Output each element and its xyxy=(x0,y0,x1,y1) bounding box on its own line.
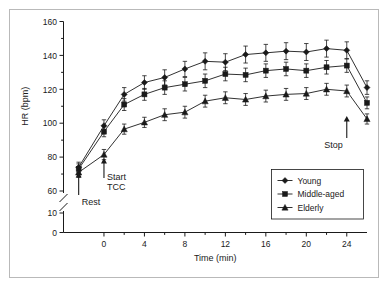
data-marker-square xyxy=(365,100,370,105)
data-marker-diamond xyxy=(324,46,330,52)
x-tick-label: 12 xyxy=(221,239,231,249)
data-marker-triangle xyxy=(121,126,127,132)
legend-label: Middle-aged xyxy=(298,189,345,199)
data-marker-diamond xyxy=(243,52,249,58)
data-marker-diamond xyxy=(121,91,127,97)
data-marker-square xyxy=(142,92,147,97)
annotation-start-tcc: Start xyxy=(107,172,127,182)
data-marker-diamond xyxy=(283,48,289,54)
data-marker-diamond xyxy=(141,80,147,86)
chart-svg: 160140120100806010004812162024Time (min)… xyxy=(0,0,389,288)
data-marker-triangle xyxy=(141,119,147,125)
x-axis-title: Time (min) xyxy=(194,253,237,263)
data-marker-square xyxy=(162,85,167,90)
data-marker-triangle xyxy=(182,109,188,115)
data-marker-square xyxy=(223,72,228,77)
data-marker-diamond xyxy=(202,58,208,64)
y-tick-label: 120 xyxy=(43,85,57,95)
data-marker-diamond xyxy=(263,50,269,56)
y-tick-label: 10 xyxy=(48,208,58,218)
hr-time-line-chart: 160140120100806010004812162024Time (min)… xyxy=(0,0,389,288)
x-tick-label: 4 xyxy=(142,239,147,249)
annotation-start-tcc-line2: TCC xyxy=(107,182,126,192)
y-tick-label: 60 xyxy=(48,186,58,196)
y-tick-label: 100 xyxy=(43,118,57,128)
x-tick-label: 24 xyxy=(342,239,352,249)
x-tick-label: 8 xyxy=(183,239,188,249)
data-marker-square xyxy=(284,66,289,71)
data-marker-square xyxy=(263,68,268,73)
y-axis-title: HR (bpm) xyxy=(20,87,30,126)
legend-label: Elderly xyxy=(298,203,325,213)
data-marker-square xyxy=(101,129,106,134)
data-marker-diamond xyxy=(344,47,350,53)
legend-label: Young xyxy=(298,176,322,186)
series-elderly xyxy=(76,83,371,177)
data-marker-square xyxy=(324,65,329,70)
data-marker-diamond xyxy=(182,66,188,72)
annotation-stop: Stop xyxy=(324,140,343,150)
y-tick-label: 0 xyxy=(52,228,57,238)
series-young xyxy=(76,40,370,172)
data-marker-diamond xyxy=(222,59,228,65)
data-marker-square xyxy=(122,102,127,107)
data-marker-square xyxy=(344,63,349,68)
data-marker-square xyxy=(203,78,208,83)
data-marker-square xyxy=(243,72,248,77)
y-tick-label: 80 xyxy=(48,152,58,162)
legend: YoungMiddle-agedElderly xyxy=(272,170,364,220)
x-tick-label: 16 xyxy=(261,239,271,249)
data-marker-diamond xyxy=(303,49,309,55)
x-tick-label: 20 xyxy=(302,239,312,249)
annotation-rest: Rest xyxy=(82,197,101,207)
data-marker-square xyxy=(304,68,309,73)
y-tick-label: 160 xyxy=(43,17,57,27)
y-tick-label: 140 xyxy=(43,51,57,61)
data-marker-square xyxy=(283,192,288,197)
data-marker-diamond xyxy=(364,85,370,91)
x-tick-label: 0 xyxy=(102,239,107,249)
data-marker-diamond xyxy=(162,74,168,80)
series-middle-aged xyxy=(76,59,369,174)
data-marker-square xyxy=(182,82,187,87)
